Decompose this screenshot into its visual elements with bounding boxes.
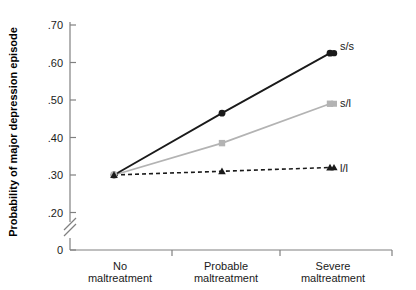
data-point-s-s-1 [219, 110, 226, 117]
series-label-s-s: s/s [340, 40, 355, 52]
y-tick-label-20: .20 [48, 207, 63, 219]
x-category-label-no-maltreatment: No maltreatment [88, 260, 152, 284]
svg-text:maltreatment: maltreatment [88, 272, 152, 284]
x-category-label-severe-maltreatment: Severe maltreatment [301, 260, 365, 284]
legend-marker-s-s [331, 50, 337, 56]
svg-text:maltreatment: maltreatment [194, 272, 258, 284]
svg-text:Severe: Severe [316, 260, 351, 272]
line-chart: Probability of major depression episode … [0, 0, 416, 290]
svg-text:maltreatment: maltreatment [301, 272, 365, 284]
x-category-label-probable-maltreatment: Probable maltreatment [194, 260, 258, 284]
y-tick-label-70: .70 [48, 19, 63, 31]
chart-figure: Probability of major depression episode … [0, 0, 416, 290]
svg-text:Probable: Probable [204, 260, 248, 272]
y-tick-label-30: .30 [48, 169, 63, 181]
series-label-s-l: s/l [340, 97, 351, 109]
svg-text:No: No [113, 260, 127, 272]
legend-marker-s-l [331, 101, 337, 107]
y-tick-label-0: 0 [57, 244, 63, 256]
data-point-s-l-1 [219, 140, 225, 146]
y-tick-label-40: .40 [48, 132, 63, 144]
y-axis-title: Probability of major depression episode [7, 27, 19, 237]
y-tick-label-60: .60 [48, 57, 63, 69]
series-label-l-l: l/l [340, 162, 348, 174]
y-tick-label-50: .50 [48, 94, 63, 106]
